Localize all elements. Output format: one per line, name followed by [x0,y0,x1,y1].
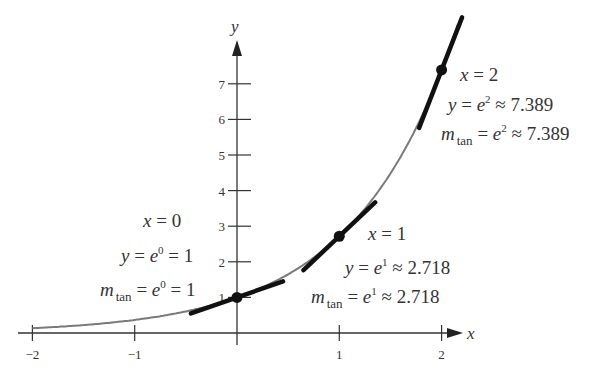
svg-text:y = e1 ≈ 2.718: y = e1 ≈ 2.718 [343,256,450,278]
exp-curve [32,24,458,328]
y-axis-arrow-icon [232,40,242,56]
tangent-point-2 [436,64,447,75]
y-axis-label: y [229,17,239,36]
tangent-point-0 [232,292,243,303]
y-tick-label: 4 [219,184,226,199]
svg-text:mtan = e0 = 1: mtan = e0 = 1 [100,278,196,304]
svg-text:x = 0: x = 0 [142,210,181,231]
x-ticks: −2−112 [25,325,444,362]
tangent-point-1 [334,231,345,242]
x-axis-label: x [466,324,475,343]
annotation-x0: x = 0 y = e0 = 1 mtan = e0 = 1 [100,210,196,304]
y-tick-label: 7 [219,77,226,92]
annotation-x1: x = 1 y = e1 ≈ 2.718 mtan = e1 ≈ 2.718 [311,223,450,311]
ann2-y-value: ≈ 7.389 [491,94,554,115]
ann0-y-value: = 1 [164,245,194,266]
y-ticks: 1234567 [219,77,252,306]
x-tick-label: −1 [128,347,142,362]
annotation-x2: x = 2 y = e2 ≈ 7.389 mtan = e2 ≈ 7.389 [441,64,569,148]
svg-text:x = 1: x = 1 [367,223,406,244]
y-tick-label: 2 [219,255,226,270]
ann0-x-value: = 0 [151,210,181,231]
y-tick-label: 5 [219,148,226,163]
svg-text:mtan = e2 ≈ 7.389: mtan = e2 ≈ 7.389 [441,122,569,148]
y-tick-label: 3 [219,219,226,234]
svg-text:y = e2 ≈ 7.389: y = e2 ≈ 7.389 [446,93,553,115]
x-tick-label: −2 [25,347,39,362]
ann2-slope-value: ≈ 7.389 [507,123,570,144]
y-tick-label: 6 [219,112,226,127]
svg-text:y = e0 = 1: y = e0 = 1 [119,244,193,266]
ann1-slope-value: ≈ 2.718 [377,286,440,307]
svg-text:x = 2: x = 2 [459,64,498,85]
x-axis: x [18,324,475,343]
ann0-slope-value: = 1 [166,279,196,300]
ann1-y-value: ≈ 2.718 [388,257,451,278]
x-tick-label: 2 [438,347,445,362]
exponential-tangent-chart: x y −2−112 1234567 x = 0 y = e0 = 1 mtan… [0,0,597,387]
x-axis-arrow-icon [447,328,463,338]
svg-text:mtan = e1 ≈ 2.718: mtan = e1 ≈ 2.718 [311,285,439,311]
x-tick-label: 1 [336,347,343,362]
